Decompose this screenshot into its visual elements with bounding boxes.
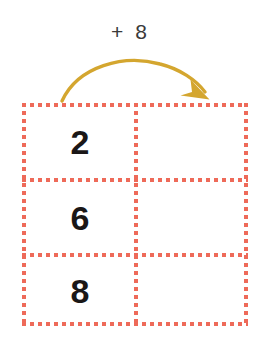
number-table: 2 6 8	[22, 103, 248, 326]
table-cell-input-2[interactable]: 6	[22, 180, 136, 255]
cell-value: 8	[69, 274, 90, 308]
cell-value: 2	[69, 125, 90, 159]
table-cell-answer-2[interactable]	[136, 180, 248, 255]
worksheet-canvas: + 8 2 6 8	[0, 0, 261, 344]
table-cell-answer-1[interactable]	[136, 103, 248, 180]
table-cell-input-3[interactable]: 8	[22, 255, 136, 326]
table-cell-input-1[interactable]: 2	[22, 103, 136, 180]
cell-value: 6	[69, 201, 90, 235]
table-cell-answer-3[interactable]	[136, 255, 248, 326]
operation-caption: + 8	[0, 18, 261, 46]
